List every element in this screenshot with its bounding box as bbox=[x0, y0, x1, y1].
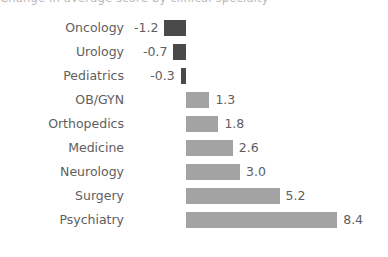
bar-row: Medicine2.6 bbox=[0, 136, 388, 160]
category-label: Psychiatry bbox=[0, 208, 124, 232]
bar-row: Orthopedics1.8 bbox=[0, 112, 388, 136]
bar-row: OB/GYN1.3 bbox=[0, 88, 388, 112]
bar-orthopedics bbox=[186, 116, 218, 132]
category-label: Urology bbox=[0, 40, 124, 64]
value-label: 2.6 bbox=[239, 136, 299, 160]
bar-urology bbox=[173, 44, 186, 60]
value-label: 8.4 bbox=[343, 208, 388, 232]
value-label: 3.0 bbox=[246, 160, 306, 184]
diverging-bar-chart: Change in average score by clinical spec… bbox=[0, 0, 388, 257]
value-label: 1.3 bbox=[215, 88, 275, 112]
value-label: -0.3 bbox=[115, 64, 175, 88]
value-label: 1.8 bbox=[224, 112, 284, 136]
bar-row: Urology-0.7 bbox=[0, 40, 388, 64]
bar-row: Psychiatry8.4 bbox=[0, 208, 388, 232]
bar-row: Neurology3.0 bbox=[0, 160, 388, 184]
plot-area: Oncology-1.2Urology-0.7Pediatrics-0.3OB/… bbox=[0, 0, 388, 257]
bar-medicine bbox=[186, 140, 233, 156]
bar-pediatrics bbox=[181, 68, 186, 84]
category-label: Neurology bbox=[0, 160, 124, 184]
value-label: -1.2 bbox=[98, 16, 158, 40]
category-label: OB/GYN bbox=[0, 88, 124, 112]
bar-oncology bbox=[164, 20, 186, 36]
value-label: 5.2 bbox=[286, 184, 346, 208]
bar-row: Pediatrics-0.3 bbox=[0, 64, 388, 88]
category-label: Surgery bbox=[0, 184, 124, 208]
bar-neurology bbox=[186, 164, 240, 180]
bar-row: Oncology-1.2 bbox=[0, 16, 388, 40]
category-label: Orthopedics bbox=[0, 112, 124, 136]
category-label: Pediatrics bbox=[0, 64, 124, 88]
category-label: Medicine bbox=[0, 136, 124, 160]
bar-psychiatry bbox=[186, 212, 337, 228]
value-label: -0.7 bbox=[107, 40, 167, 64]
bar-ob-gyn bbox=[186, 92, 209, 108]
bar-surgery bbox=[186, 188, 280, 204]
bar-row: Surgery5.2 bbox=[0, 184, 388, 208]
